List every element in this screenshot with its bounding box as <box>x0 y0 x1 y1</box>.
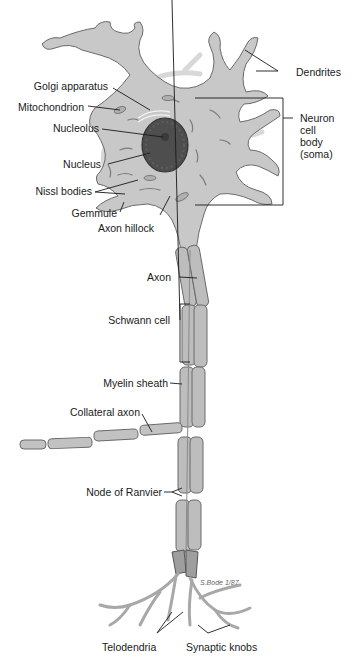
label-nucleolus: Nucleolus <box>53 122 99 134</box>
collateral-axon-segments <box>20 423 182 449</box>
nucleus <box>142 118 188 172</box>
label-mitochondrion: Mitochondrion <box>18 101 84 113</box>
terminal-bulbs <box>172 550 198 578</box>
label-schwann-cell: Schwann cell <box>108 314 170 326</box>
myelinated-axon <box>175 244 209 552</box>
label-axon: Axon <box>147 271 171 283</box>
label-neuron-cell-body: Neuron cell body (soma) <box>300 112 334 160</box>
label-axon-hillock: Axon hillock <box>98 222 154 234</box>
neuron-illustration: S.Bode 1/87 <box>0 0 352 657</box>
label-nissl-bodies: Nissl bodies <box>35 185 92 197</box>
label-gemmule: Gemmule <box>71 207 117 219</box>
label-collateral-axon: Collateral axon <box>70 406 140 418</box>
label-synaptic-knobs: Synaptic knobs <box>186 641 257 653</box>
label-myelin-sheath: Myelin sheath <box>103 377 168 389</box>
label-nucleus: Nucleus <box>63 158 101 170</box>
label-node-of-ranvier: Node of Ranvier <box>86 486 162 498</box>
label-dendrites: Dendrites <box>296 66 341 78</box>
label-golgi-apparatus: Golgi apparatus <box>34 80 108 92</box>
label-telodendria: Telodendria <box>102 641 156 653</box>
signature: S.Bode 1/87 <box>200 579 240 586</box>
